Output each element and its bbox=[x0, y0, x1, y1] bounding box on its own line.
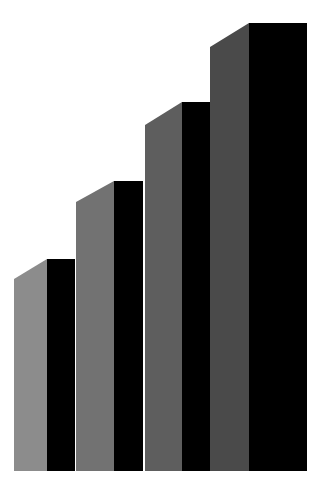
stepped-3d-bar-chart bbox=[0, 0, 323, 478]
bar-1 bbox=[14, 259, 75, 471]
bar-side-face bbox=[76, 181, 114, 471]
bar-3 bbox=[145, 102, 210, 471]
bar-front-face bbox=[182, 102, 210, 471]
bar-4 bbox=[210, 23, 307, 471]
bar-side-face bbox=[210, 23, 249, 471]
bar-front-face bbox=[47, 259, 75, 471]
bar-side-face bbox=[145, 102, 182, 471]
bar-front-face bbox=[114, 181, 143, 471]
bar-2 bbox=[76, 181, 143, 471]
bar-side-face bbox=[14, 259, 47, 471]
bar-front-face bbox=[249, 23, 307, 471]
bar-chart-canvas bbox=[0, 0, 323, 478]
